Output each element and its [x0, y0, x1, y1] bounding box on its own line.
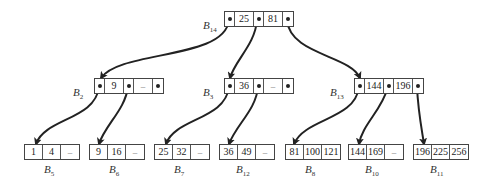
leaf-label-b8: B8: [305, 163, 315, 178]
empty-key-cell: –: [134, 79, 153, 93]
key-cell: 121: [322, 145, 340, 159]
leaf-b11: 196 225 256: [413, 144, 469, 160]
empty-key-cell: –: [191, 145, 209, 159]
edge-b14-b13: [287, 20, 360, 78]
leaf-label-b10: B10: [365, 163, 379, 178]
edge-b2-b6: [99, 87, 128, 144]
key-cell: 25: [235, 12, 254, 26]
key-cell: 25: [155, 145, 173, 159]
leaf-b10: 144 169 –: [348, 144, 404, 160]
pointer-dot-icon: [127, 84, 131, 88]
node-label-b14: B14: [203, 19, 217, 34]
pointer-dot-icon: [416, 84, 420, 88]
b-tree-diagram: 25 81 B14 9 – B2 36 – B3 144 196 B13 1 4…: [0, 0, 492, 182]
node-b13: 144 196: [354, 78, 424, 94]
edge-b13-b10: [359, 87, 388, 144]
key-cell: 196: [394, 79, 413, 93]
pointer-dot-icon: [286, 17, 290, 21]
pointer-dot-icon: [228, 84, 232, 88]
pointer-dot-icon: [156, 84, 160, 88]
edge-b3-b12: [229, 87, 258, 144]
pointer-cell: [283, 12, 293, 26]
key-cell: 36: [220, 145, 238, 159]
pointer-cell: [225, 79, 235, 93]
pointer-cell: [384, 79, 394, 93]
key-cell: 32: [173, 145, 191, 159]
leaf-label-b12: B12: [236, 163, 250, 178]
key-cell: 256: [450, 145, 468, 159]
key-cell: 9: [90, 145, 108, 159]
key-cell: 169: [367, 145, 385, 159]
node-label-b3: B3: [203, 86, 213, 101]
pointer-dot-icon: [257, 84, 261, 88]
leaf-label-b6: B6: [109, 163, 119, 178]
pointer-cell: [283, 79, 293, 93]
leaf-label-b5: B5: [44, 163, 54, 178]
empty-key-cell: –: [385, 145, 403, 159]
leaf-label-b7: B7: [174, 163, 184, 178]
empty-key-cell: –: [61, 145, 79, 159]
leaf-label-b11: B11: [430, 163, 443, 178]
leaf-b8: 81 100 121: [285, 144, 341, 160]
leaf-b6: 9 16 –: [89, 144, 145, 160]
key-cell: 16: [108, 145, 126, 159]
key-cell: 196: [414, 145, 432, 159]
key-cell: 81: [286, 145, 304, 159]
edge-b14-b3: [230, 20, 257, 78]
empty-key-cell: –: [264, 79, 283, 93]
pointer-cell: [153, 79, 163, 93]
node-label-b2: B2: [73, 86, 83, 101]
key-cell: 225: [432, 145, 450, 159]
leaf-b5: 1 4 –: [24, 144, 80, 160]
pointer-dot-icon: [98, 84, 102, 88]
pointer-dot-icon: [257, 17, 261, 21]
pointer-cell: [355, 79, 365, 93]
pointer-cell: [95, 79, 105, 93]
key-cell: 144: [349, 145, 367, 159]
pointer-dot-icon: [358, 84, 362, 88]
empty-key-cell: –: [256, 145, 274, 159]
pointer-cell: [124, 79, 134, 93]
edge-b13-b8: [294, 87, 359, 144]
key-cell: 9: [105, 79, 124, 93]
node-b14: 25 81: [224, 11, 294, 27]
pointer-cell: [254, 79, 264, 93]
key-cell: 100: [304, 145, 322, 159]
key-cell: 4: [43, 145, 61, 159]
edge-b3-b7: [166, 87, 229, 144]
pointer-dot-icon: [228, 17, 232, 21]
pointer-dot-icon: [387, 84, 391, 88]
node-b3: 36 –: [224, 78, 294, 94]
leaf-b7: 25 32 –: [154, 144, 210, 160]
leaf-b12: 36 49 –: [219, 144, 275, 160]
key-cell: 1: [25, 145, 43, 159]
key-cell: 49: [238, 145, 256, 159]
pointer-cell: [254, 12, 264, 26]
edge-b13-b11: [417, 87, 424, 144]
pointer-cell: [413, 79, 423, 93]
empty-key-cell: –: [126, 145, 144, 159]
pointer-dot-icon: [286, 84, 290, 88]
node-b2: 9 –: [94, 78, 164, 94]
key-cell: 81: [264, 12, 283, 26]
key-cell: 36: [235, 79, 254, 93]
edge-b2-b5: [36, 87, 99, 144]
node-label-b13: B13: [330, 86, 344, 101]
pointer-cell: [225, 12, 235, 26]
key-cell: 144: [365, 79, 384, 93]
